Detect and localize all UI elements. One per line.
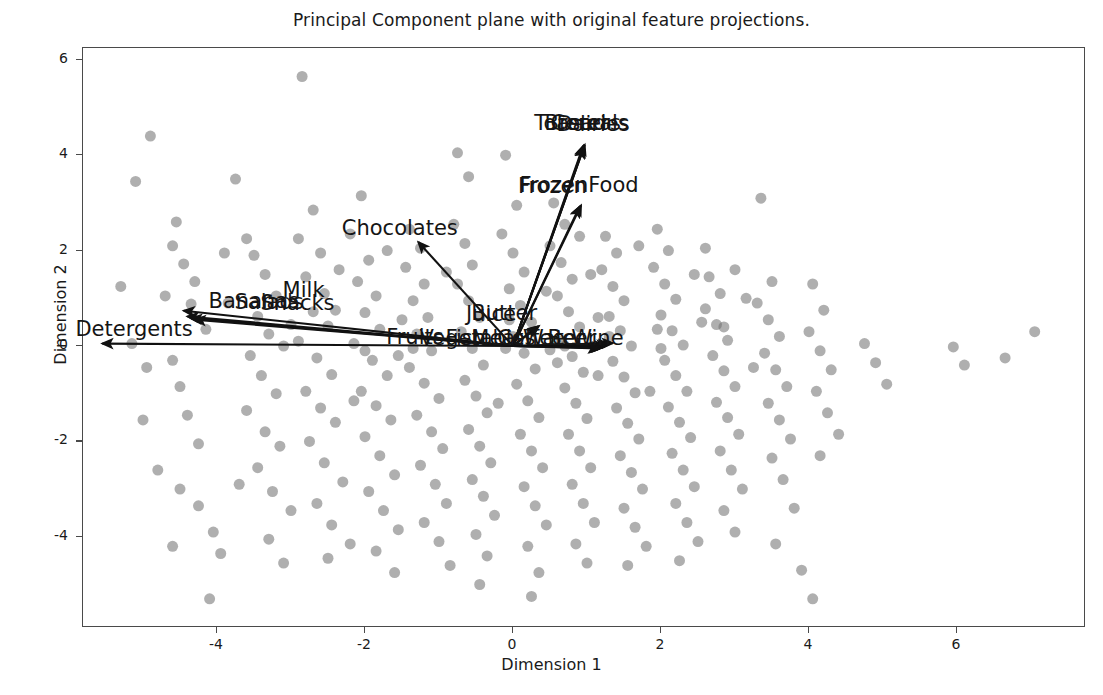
feature-vector-label: Detergents [75,317,192,341]
y-axis-label: Dimension 2 [51,225,70,405]
y-tick-label: 4 [34,145,68,161]
y-tick-mark [76,154,82,155]
x-tick-label: -2 [344,636,384,652]
y-tick-mark [76,536,82,537]
feature-vector-label: Dairies [556,112,629,136]
x-tick-label: -4 [196,636,236,652]
y-tick-label: -4 [34,527,68,543]
x-tick-label: 4 [788,636,828,652]
feature-vector-label: Chocolates [342,216,458,240]
x-tick-mark [660,627,661,633]
chart-title: Principal Component plane with original … [0,10,1103,30]
x-tick-mark [364,627,365,633]
x-axis-label: Dimension 1 [0,655,1103,674]
y-tick-mark [76,440,82,441]
x-tick-label: 2 [640,636,680,652]
y-tick-mark [76,59,82,60]
x-tick-mark [808,627,809,633]
x-tick-label: 0 [492,636,532,652]
y-tick-mark [76,250,82,251]
x-tick-mark [956,627,957,633]
chart-root: Principal Component plane with original … [0,0,1103,695]
x-tick-mark [512,627,513,633]
y-tick-mark [76,345,82,346]
feature-vector-label: Wine [571,326,623,350]
x-tick-label: 6 [936,636,976,652]
y-tick-label: -2 [34,431,68,447]
x-tick-mark [216,627,217,633]
feature-vector-label: Snacks [260,291,334,315]
feature-vector-label: Juice [466,302,516,326]
feature-vector-label: Frozen [518,174,587,198]
y-tick-label: 6 [34,50,68,66]
